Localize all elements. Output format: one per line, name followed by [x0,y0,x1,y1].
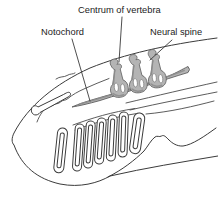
centrum-foramen [139,79,143,88]
otic-wrinkle-line [56,73,75,79]
centrum-foramen [158,74,162,83]
label-neural-spine: Neural spine [150,27,202,37]
centrum-foramen [120,84,124,93]
gill-arch-left-oval [53,127,68,173]
vertebra-body [109,58,129,97]
rostral-cartilage [31,92,70,115]
vertebra-3 [147,49,167,88]
gill-arch-right-oval [129,112,146,154]
label-centrum-of-vertebra: Centrum of vertebra [78,5,162,15]
anatomy-diagram: Centrum of vertebra Notochord Neural spi… [0,0,218,197]
body-line-lower [130,92,217,110]
gill-arch-5 [118,112,129,157]
vertebra-body [147,49,167,88]
fish-skeleton-illustration: Centrum of vertebra Notochord Neural spi… [0,0,218,197]
body-line-rear [146,101,214,114]
gill-arch-4 [106,115,117,161]
leader-line-centrum [119,17,122,62]
centrum-foramen [114,83,118,92]
vertebra-body [128,54,148,93]
label-notochord: Notochord [41,27,84,37]
centrum-foramen [133,78,137,87]
vertebra-1 [109,58,129,97]
gill-arch-3 [94,118,106,165]
leader-line-notochord [72,39,90,101]
gill-arch-2 [83,121,95,169]
gill-arch-1 [72,124,84,172]
centrum-foramen [152,73,156,82]
vertebra-2 [128,54,148,93]
